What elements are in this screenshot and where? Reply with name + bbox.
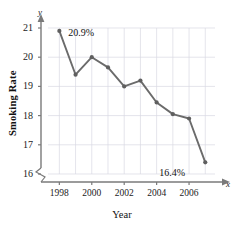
data-annotation-label: 20.9% [68, 28, 94, 38]
y-tick-label: 18 [17, 111, 33, 121]
x-tick-label: 2002 [107, 189, 141, 199]
axis-lines [38, 14, 230, 185]
y-tick-label: 21 [17, 23, 33, 33]
data-point-marker [203, 160, 207, 164]
x-tick-label: 2006 [172, 189, 206, 199]
data-point-marker [155, 100, 159, 104]
data-point-marker [138, 78, 142, 82]
x-tick-label: 2004 [140, 189, 174, 199]
x-axis-letter: x [226, 180, 230, 189]
y-axis-title: Smoking Rate [8, 63, 19, 143]
data-point-marker [73, 73, 77, 77]
data-point-marker [106, 65, 110, 69]
smoking-rate-line-chart: Smoking Rate Year y x 161718192021 19982… [0, 0, 237, 229]
data-point-marker [171, 112, 175, 116]
x-tick-label: 1998 [42, 189, 76, 199]
y-tick-label: 16 [17, 169, 33, 179]
data-line [59, 31, 205, 162]
data-point-marker [122, 84, 126, 88]
data-point-marker [90, 55, 94, 59]
axis-break-symbol [36, 168, 45, 182]
tick-marks [38, 28, 189, 185]
x-tick-label: 2000 [75, 189, 109, 199]
y-tick-label: 19 [17, 81, 33, 91]
y-tick-label: 20 [17, 52, 33, 62]
y-axis-letter: y [38, 8, 42, 17]
data-point-marker [57, 29, 61, 33]
grid-lines [48, 28, 215, 174]
y-tick-label: 17 [17, 140, 33, 150]
data-annotation-label: 16.4% [159, 168, 185, 178]
x-axis-title: Year [82, 210, 162, 221]
data-point-marker [187, 116, 191, 120]
